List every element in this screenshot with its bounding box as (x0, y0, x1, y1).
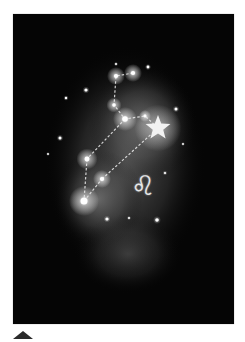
scroll-up-arrow-icon[interactable] (13, 331, 33, 339)
regulus-star-icon (135, 105, 182, 152)
starfield-illustration (13, 14, 234, 324)
nebula-cloud (43, 44, 207, 294)
leo-constellation-artwork: ♌ (13, 14, 234, 324)
leo-zodiac-symbol: ♌ (131, 172, 155, 199)
